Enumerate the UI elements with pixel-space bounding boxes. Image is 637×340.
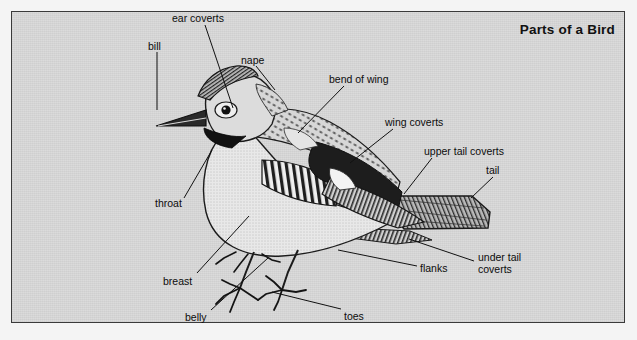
label-under-tail-coverts: under tail coverts [478,252,530,275]
label-throat: throat [155,198,182,210]
bird-body-group [156,66,490,312]
label-flanks: flanks [420,263,447,275]
leg-left [240,252,254,288]
label-nape: nape [241,55,264,67]
label-bill: bill [148,41,161,53]
leader-under-tail-coverts [409,239,474,261]
label-ear-coverts: ear coverts [172,13,224,25]
diagram-page: Parts of a Bird [0,0,637,340]
foot-left [216,280,258,312]
label-tail: tail [486,165,499,177]
label-wing-coverts: wing coverts [385,117,443,129]
label-bend-of-wing: bend of wing [329,74,389,86]
label-belly: belly [185,312,207,324]
leader-upper-tail-coverts [404,158,432,194]
eye [221,105,230,114]
label-toes: toes [344,311,364,323]
label-upper-tail-coverts: upper tail coverts [424,146,504,158]
foot-right [258,276,306,310]
bill-shape [156,110,206,126]
leader-toes [272,292,341,309]
leader-flanks [338,250,417,266]
leader-tail [471,177,493,198]
bird-illustration [0,0,637,340]
label-breast: breast [163,276,192,288]
